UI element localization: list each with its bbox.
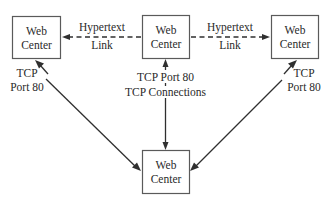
node-box bbox=[143, 16, 190, 59]
port-label: Port 80 bbox=[10, 81, 44, 93]
node-web-center-middle: Web Center bbox=[143, 16, 190, 59]
tcp-port-label: TCP Port 80 bbox=[137, 71, 194, 83]
hypertext-link-right: Hypertext Link bbox=[191, 21, 270, 51]
node-web-center-right: Web Center bbox=[272, 16, 319, 59]
tcp-label: TCP bbox=[16, 67, 37, 79]
node-label-line2: Center bbox=[280, 38, 311, 50]
link-label: Link bbox=[91, 39, 113, 51]
hypertext-link-left: Hypertext Link bbox=[62, 21, 141, 51]
connector-line bbox=[46, 79, 137, 168]
arrow-up-icon bbox=[163, 59, 169, 67]
node-label-line2: Center bbox=[151, 38, 182, 50]
node-label-line1: Web bbox=[156, 159, 177, 171]
connector-line bbox=[40, 65, 48, 74]
tcp-label: TCP bbox=[293, 67, 314, 79]
node-box bbox=[143, 151, 190, 194]
arrow-right-icon bbox=[262, 34, 270, 40]
node-label-line1: Web bbox=[285, 24, 306, 36]
tcp-connections-label: TCP Connections bbox=[125, 86, 207, 98]
connector-line bbox=[194, 80, 282, 168]
node-label-line1: Web bbox=[26, 25, 47, 37]
node-box bbox=[13, 17, 61, 59]
web-center-diagram: Hypertext Link Hypertext Link TCP Port 8… bbox=[0, 0, 329, 203]
node-label-line1: Web bbox=[156, 24, 177, 36]
tcp-connection-middle: TCP Port 80 TCP Connections bbox=[125, 59, 207, 150]
connector-line bbox=[284, 65, 292, 74]
node-web-center-left: Web Center bbox=[13, 17, 61, 59]
arrow-down-icon bbox=[163, 142, 169, 150]
tcp-connection-left: TCP Port 80 bbox=[10, 60, 141, 171]
node-label-line2: Center bbox=[151, 173, 182, 185]
link-label: Link bbox=[219, 39, 241, 51]
arrow-left-icon bbox=[62, 34, 70, 40]
hypertext-label: Hypertext bbox=[79, 21, 126, 34]
node-label-line2: Center bbox=[21, 39, 52, 51]
tcp-connection-right: TCP Port 80 bbox=[190, 60, 321, 171]
node-web-center-bottom: Web Center bbox=[143, 151, 190, 194]
node-box bbox=[272, 16, 319, 59]
hypertext-label: Hypertext bbox=[207, 21, 254, 34]
port-label: Port 80 bbox=[287, 81, 321, 93]
